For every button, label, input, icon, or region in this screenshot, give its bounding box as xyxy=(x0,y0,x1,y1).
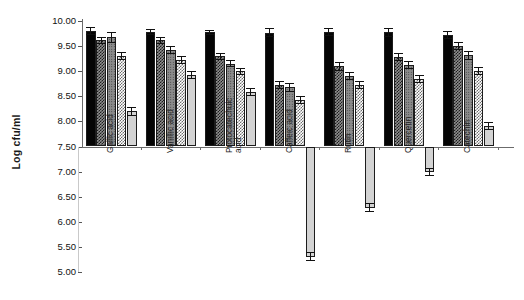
error-bar-cap xyxy=(335,62,344,63)
error-bar-cap xyxy=(216,53,225,54)
error-bar-cap xyxy=(365,211,374,212)
bar xyxy=(127,111,137,146)
x-axis-tick xyxy=(438,147,439,150)
x-axis-label-line: Protocatechuic xyxy=(225,97,234,153)
error-bar-cap xyxy=(285,83,294,84)
x-axis-tick xyxy=(141,147,142,150)
x-axis-label-line: Caffeic acid xyxy=(285,109,294,153)
bar xyxy=(176,60,186,146)
y-tick-label: 5.00 xyxy=(36,267,76,277)
x-axis-tick xyxy=(319,147,320,150)
bar xyxy=(146,32,156,146)
y-tick-label: 6.00 xyxy=(36,217,76,227)
y-tick-mark xyxy=(78,272,82,273)
y-tick-label: 7.50 xyxy=(36,142,76,152)
x-axis-label-line: acid xyxy=(234,97,243,153)
bar xyxy=(443,35,453,146)
x-axis-tick xyxy=(260,147,261,150)
bar xyxy=(156,40,166,146)
bar xyxy=(96,40,106,146)
x-axis-label: Rutin xyxy=(344,133,353,153)
bar xyxy=(295,100,305,146)
bar-chart: Log cfu/ml 10.009.509.008.508.007.507.00… xyxy=(0,0,524,300)
error-bar-cap xyxy=(443,31,452,32)
bar xyxy=(306,147,316,257)
error-bar-cap xyxy=(404,61,413,62)
error-bar-cap xyxy=(306,260,315,261)
y-tick-label: 5.50 xyxy=(36,242,76,252)
error-bar-cap xyxy=(484,122,493,123)
error-bar-cap xyxy=(265,28,274,29)
error-bar-cap xyxy=(146,29,155,30)
x-axis-tick xyxy=(498,147,499,150)
x-axis-label: Catechin xyxy=(463,119,472,152)
error-bar-cap xyxy=(355,81,364,82)
error-bar-cap xyxy=(107,32,116,33)
y-tick-label: 8.50 xyxy=(36,91,76,101)
x-axis-label: Gallic acid xyxy=(106,114,115,153)
bar xyxy=(394,57,404,146)
bar xyxy=(246,92,256,146)
x-axis-tick xyxy=(379,147,380,150)
bar xyxy=(215,56,225,146)
y-axis-line xyxy=(82,19,83,147)
bar xyxy=(187,75,197,146)
x-axis-label-line: Rutin xyxy=(344,133,353,153)
x-axis-label: Protocatechuicacid xyxy=(225,97,243,153)
y-axis-title: Log cfu/ml xyxy=(10,102,22,182)
y-tick-label: 6.50 xyxy=(36,192,76,202)
y-tick-mark xyxy=(78,46,82,47)
bar xyxy=(324,32,334,146)
y-axis-lower-line xyxy=(78,147,79,273)
error-bar-cap xyxy=(205,30,214,31)
y-tick-label: 10.00 xyxy=(36,16,76,26)
x-axis-label: Caffeic acid xyxy=(285,109,294,153)
bar xyxy=(484,126,494,146)
x-axis-label-line: Gallic acid xyxy=(106,114,115,153)
error-bar-cap xyxy=(345,72,354,73)
error-bar-cap xyxy=(384,28,393,29)
x-axis-label: Quercetin xyxy=(404,116,413,152)
y-tick-mark xyxy=(78,21,82,22)
error-bar-cap xyxy=(246,88,255,89)
bar xyxy=(265,33,275,147)
error-bar-cap xyxy=(86,27,95,28)
error-bar-cap xyxy=(454,42,463,43)
bar xyxy=(365,147,375,208)
error-bar-cap xyxy=(187,71,196,72)
y-tick-label: 8.00 xyxy=(36,116,76,126)
bar xyxy=(425,147,435,172)
error-bar-cap xyxy=(324,28,333,29)
x-axis-tick xyxy=(200,147,201,150)
error-bar-cap xyxy=(296,96,305,97)
bar xyxy=(414,79,424,147)
error-bar-cap xyxy=(236,68,245,69)
y-tick-label: 7.00 xyxy=(36,167,76,177)
error-bar-cap xyxy=(415,75,424,76)
y-tick-mark xyxy=(78,121,82,122)
bar xyxy=(384,32,394,146)
error-bar-cap xyxy=(275,81,284,82)
y-tick-label: 9.50 xyxy=(36,41,76,51)
x-axis-label-line: Vanillic acid xyxy=(166,109,175,153)
bar xyxy=(205,32,215,146)
x-axis-label: Vanillic acid xyxy=(166,109,175,153)
bar xyxy=(275,85,285,146)
error-bar-cap xyxy=(127,107,136,108)
y-tick-label: 9.00 xyxy=(36,66,76,76)
error-bar-cap xyxy=(394,53,403,54)
error-bar-cap xyxy=(166,46,175,47)
bar xyxy=(474,71,484,146)
error-bar-cap xyxy=(474,67,483,68)
bar xyxy=(117,56,127,146)
error-bar-cap xyxy=(177,56,186,57)
y-tick-mark xyxy=(78,71,82,72)
bar xyxy=(334,66,344,146)
y-tick-mark xyxy=(78,96,82,97)
x-axis-label-line: Catechin xyxy=(463,119,472,152)
x-axis-label-line: Quercetin xyxy=(404,116,413,152)
error-bar-cap xyxy=(425,175,434,176)
bar xyxy=(453,46,463,146)
bar xyxy=(86,31,96,146)
error-bar-cap xyxy=(156,37,165,38)
